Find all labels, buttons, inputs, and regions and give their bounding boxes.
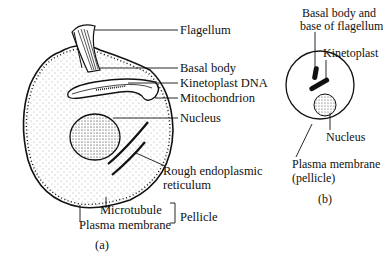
- label-basal-body-line2: base of flagellum: [300, 20, 383, 33]
- label-basal-body: Basal body: [180, 62, 236, 75]
- caption-a: (a): [95, 239, 109, 252]
- label-nucleus: Nucleus: [180, 112, 221, 125]
- label-nucleus-b: Nucleus: [326, 131, 365, 144]
- label-mitochondrion: Mitochondrion: [180, 92, 255, 105]
- caption-b: (b): [318, 193, 332, 206]
- label-flagellum: Flagellum: [180, 24, 231, 37]
- label-kinetoplast-dna: Kinetoplast DNA: [180, 77, 268, 90]
- label-plasma-membrane: Plasma membrane: [79, 219, 171, 232]
- label-plasma-membrane-b: Plasma membrane: [292, 158, 380, 171]
- label-rer-line1: Rough endoplasmic: [163, 165, 263, 178]
- label-microtubule: Microtubule: [100, 204, 162, 217]
- label-rer-line2: reticulum: [163, 179, 211, 192]
- label-pellicle-b: (pellicle): [292, 172, 335, 185]
- label-pellicle: Pellicle: [180, 211, 218, 224]
- nucleus-a: [70, 114, 120, 160]
- label-kinetoplast: Kinetoplast: [323, 47, 378, 60]
- cell-body-b: [286, 51, 354, 119]
